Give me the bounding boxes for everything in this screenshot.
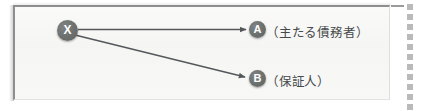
perforation-dot	[407, 54, 413, 60]
perforation-dot	[407, 44, 413, 50]
perforation-dot	[407, 14, 413, 20]
perforation-dot	[407, 94, 413, 100]
node-b[interactable]: B	[249, 70, 266, 87]
perforation-dot	[407, 4, 413, 10]
figure-page: X A B （主たる債務者） （保証人）	[0, 0, 421, 111]
edge-x-to-b	[75, 35, 245, 77]
diagram-canvas	[0, 0, 421, 111]
perforation-dot	[407, 64, 413, 70]
perforation-dot	[407, 34, 413, 40]
node-x[interactable]: X	[57, 20, 78, 41]
perforation-dot	[407, 84, 413, 90]
perforation-column	[407, 4, 414, 111]
perforation-dot	[407, 74, 413, 80]
perforation-dot	[407, 24, 413, 30]
role-label-a: （主たる債務者）	[266, 22, 368, 41]
perforation-top-rule	[391, 5, 404, 7]
role-label-b: （保証人）	[266, 71, 330, 90]
node-a[interactable]: A	[249, 21, 266, 38]
perforation-dot	[407, 104, 413, 110]
